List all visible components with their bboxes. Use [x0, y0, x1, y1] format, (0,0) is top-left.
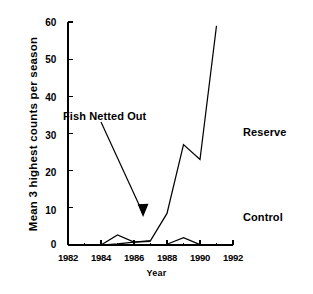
annotation-arrow: [101, 122, 148, 215]
series-line-reserve: [101, 26, 217, 245]
chart-figure: Mean 3 highest counts per season Year 60…: [0, 0, 313, 294]
chart-axes: [68, 22, 233, 245]
chart-series-lines: [101, 26, 217, 245]
chart-plot-area: [0, 0, 313, 294]
